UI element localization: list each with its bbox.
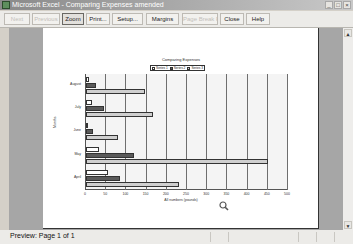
plot-area (85, 74, 287, 190)
excel-app-icon[interactable] (2, 1, 10, 9)
chart-legend: Series 1 Series 2 Series 3 (150, 65, 205, 71)
status-panel (228, 232, 298, 242)
previous-button[interactable]: Previous (32, 13, 60, 25)
legend-label: Series 3 (191, 66, 203, 70)
gridline (166, 74, 167, 190)
x-tick-label: 400 (239, 192, 255, 196)
x-tick-label: 150 (138, 192, 154, 196)
gridline (267, 74, 268, 190)
zoom-button[interactable]: Zoom (62, 13, 84, 25)
chart-title: Comparing Expenses (43, 57, 319, 62)
preview-page[interactable]: Comparing Expenses Series 1 Series 2 Ser… (43, 28, 319, 229)
gridline (206, 74, 207, 190)
x-tick-label: 0 (77, 192, 93, 196)
legend-label: Series 2 (174, 66, 186, 70)
legend-label: Series 1 (156, 66, 168, 70)
bar (86, 147, 99, 152)
y-category-label: May (74, 152, 81, 156)
status-panel (334, 232, 352, 242)
restore-icon[interactable]: □ (334, 1, 342, 9)
x-tick-label: 200 (158, 192, 174, 196)
gridline (186, 74, 187, 190)
setup-button[interactable]: Setup... (112, 13, 143, 25)
bar (86, 159, 268, 164)
status-text: Preview: Page 1 of 1 (10, 232, 75, 239)
y-category-label: August (70, 82, 81, 86)
next-button[interactable]: Next (4, 13, 30, 25)
x-tick-label: 250 (178, 192, 194, 196)
legend-item: Series 2 (170, 66, 186, 70)
y-category-label: April (74, 175, 81, 179)
legend-swatch (152, 67, 155, 70)
gridline (146, 74, 147, 190)
x-axis-title: All numbers (pounds) (151, 198, 211, 202)
minimize-icon[interactable]: _ (325, 1, 333, 9)
scroll-down-icon[interactable]: ▼ (344, 221, 352, 229)
close-icon[interactable]: × (343, 1, 351, 9)
window-controls: _ □ × (325, 0, 351, 10)
magnifier-cursor-icon (219, 201, 229, 211)
gridline (247, 74, 248, 190)
gridline (226, 74, 227, 190)
window-title: Microsoft Excel - Comparing Expenses ame… (12, 0, 164, 10)
preview-workspace: Comparing Expenses Series 1 Series 2 Ser… (9, 28, 343, 230)
status-bar: Preview: Page 1 of 1 (0, 230, 353, 244)
legend-item: Series 1 (152, 66, 168, 70)
bar (86, 176, 120, 181)
bar (86, 135, 118, 140)
vertical-scrollbar[interactable]: ▲ ▼ (343, 28, 353, 230)
bar (86, 129, 93, 134)
print-preview-toolbar: Next Previous Zoom Print... Setup... Mar… (0, 11, 353, 28)
x-tick-label: 450 (259, 192, 275, 196)
y-axis-title: Months (53, 117, 57, 128)
x-tick-label: 350 (218, 192, 234, 196)
print-button[interactable]: Print... (86, 13, 110, 25)
status-panel (210, 232, 228, 242)
bar (86, 106, 104, 111)
x-tick-label: 50 (97, 192, 113, 196)
status-panel (316, 232, 334, 242)
bar (86, 153, 134, 158)
gridline (287, 74, 288, 190)
margins-button[interactable]: Margins (146, 13, 179, 25)
bar (86, 112, 153, 117)
excel-window: Microsoft Excel - Comparing Expenses ame… (0, 0, 353, 244)
bar (86, 89, 145, 94)
status-panel (298, 232, 316, 242)
page-break-preview-button[interactable]: Page Break Preview (182, 13, 218, 25)
y-category-label: July (75, 105, 81, 109)
title-bar: Microsoft Excel - Comparing Expenses ame… (0, 0, 353, 10)
close-button[interactable]: Close (220, 13, 244, 25)
bar (86, 77, 89, 82)
bar (86, 100, 92, 105)
legend-swatch (187, 67, 190, 70)
y-category-label: June (73, 128, 81, 132)
x-tick-label: 500 (279, 192, 295, 196)
legend-item: Series 3 (187, 66, 203, 70)
scroll-up-icon[interactable]: ▲ (344, 29, 352, 37)
bar (86, 170, 108, 175)
x-tick-label: 100 (117, 192, 133, 196)
bar (86, 83, 96, 88)
legend-swatch (170, 67, 173, 70)
help-button[interactable]: Help (246, 13, 270, 25)
x-tick-label: 300 (198, 192, 214, 196)
bar (86, 182, 179, 187)
bar (86, 123, 88, 128)
